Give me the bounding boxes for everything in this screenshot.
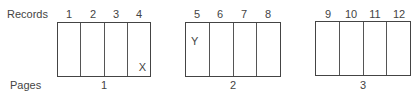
record-number: 8 xyxy=(258,8,278,20)
record-slot xyxy=(387,22,410,75)
record-slot xyxy=(81,23,104,76)
record-slot xyxy=(58,23,81,76)
record-slot xyxy=(340,22,364,75)
record-slot: X xyxy=(128,23,150,76)
record-number: 12 xyxy=(389,8,409,20)
record-slot: Y xyxy=(186,23,210,76)
record-number: 10 xyxy=(341,8,361,20)
record-number: 6 xyxy=(210,8,230,20)
record-slot xyxy=(364,22,388,75)
record-number: 5 xyxy=(187,8,207,20)
record-number: 2 xyxy=(83,8,103,20)
mark-y: Y xyxy=(191,35,198,47)
page-box-1: X xyxy=(57,22,151,77)
page-box-3 xyxy=(315,21,411,76)
mark-x: X xyxy=(139,61,146,73)
record-number: 1 xyxy=(59,8,79,20)
record-slot xyxy=(210,23,234,76)
record-slot xyxy=(257,23,280,76)
record-slot xyxy=(234,23,258,76)
page-number: 2 xyxy=(223,79,243,91)
record-number: 4 xyxy=(129,8,149,20)
record-number: 3 xyxy=(106,8,126,20)
pages-label: Pages xyxy=(10,79,41,91)
record-number: 11 xyxy=(365,8,385,20)
record-slot xyxy=(316,22,340,75)
records-label: Records xyxy=(7,8,48,20)
record-number: 7 xyxy=(234,8,254,20)
page-number: 1 xyxy=(94,79,114,91)
record-number: 9 xyxy=(318,8,338,20)
page-number: 3 xyxy=(353,79,373,91)
record-slot xyxy=(105,23,128,76)
page-box-2: Y xyxy=(185,22,281,77)
